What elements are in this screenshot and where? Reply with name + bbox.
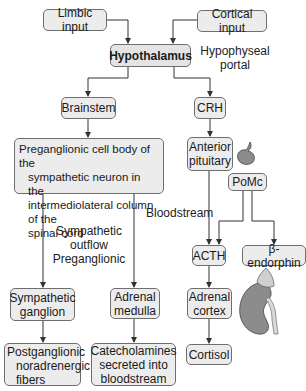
adrenal-cortex-node: Adrenal cortex [187,288,232,319]
acth-node: ACTH [192,245,226,266]
brainstem-label: Brainstem [61,101,115,115]
pomc-node: PoMc [228,173,267,191]
cortical-input-label: Cortical input [198,7,266,35]
adrenal-medulla-node: Adrenal medulla [110,288,160,319]
cortical-input-node: Cortical input [197,10,267,32]
pituitary-gland-icon [238,142,255,164]
beta-endorphin-label: β-endorphin [243,242,305,270]
crh-node: CRH [194,97,226,119]
beta-endorphin-node: β-endorphin [242,245,306,266]
postganglionic-fibers-node: Postganglionic noradrenergic fibers [4,343,81,386]
pomc-label: PoMc [232,175,263,189]
limbic-input-node: Limbic input [43,9,107,31]
hypothalamus-label: Hypothalamus [109,49,192,63]
preganglionic-cell-body-node: Preganglionic cell body of the sympathet… [14,138,164,194]
sympathetic-outflow-label: Sympathetic outflow Preganglionic [45,224,133,266]
crh-label: CRH [197,101,223,115]
hypophyseal-portal-label: Hypophyseal portal [200,44,270,72]
cortisol-label: Cortisol [189,348,230,362]
hypothalamus-node: Hypothalamus [110,44,191,67]
brainstem-node: Brainstem [61,97,116,119]
cortisol-node: Cortisol [186,344,232,365]
acth-label: ACTH [193,249,226,263]
anterior-pituitary-node: Anterior pituitary [187,137,233,171]
sympathetic-ganglion-node: Sympathetic ganglion [10,288,75,321]
catecholamines-node: Catecholamines secreted into bloodstream [91,343,176,386]
bloodstream-label: Bloodstream [146,206,208,220]
limbic-input-label: Limbic input [44,6,106,34]
kidney-adrenal-icon [240,268,278,334]
